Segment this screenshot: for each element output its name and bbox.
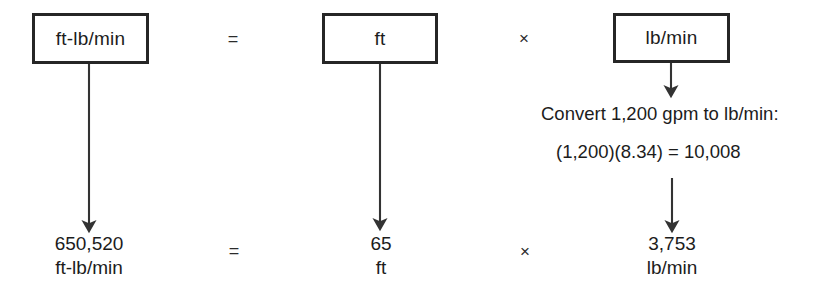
operator-equals-bottom: = [216,242,252,260]
operator-times-bottom: × [507,243,543,260]
result-value-1-number: 650,520 [55,232,124,256]
conversion-note-line1: Convert 1,200 gpm to lb/min: [541,103,779,124]
operator-equals-top: = [215,30,251,48]
unit-box-ft-label: ft [375,28,386,50]
unit-box-ft-lb-min: ft-lb/min [32,13,149,64]
formula-diagram: ft-lb/min = ft × lb/min Convert 1,200 gp… [0,0,829,291]
result-value-2-number: 65 [370,232,391,256]
result-value-1: 650,520 ft-lb/min [55,232,124,281]
result-value-2-unit: ft [370,256,391,280]
unit-box-lb-min: lb/min [613,13,730,63]
result-value-3: 3,753 lb/min [647,232,698,281]
result-value-3-unit: lb/min [647,256,698,280]
result-value-2: 65 ft [370,232,391,281]
conversion-note-line2: (1,200)(8.34) = 10,008 [556,141,741,162]
result-value-3-number: 3,753 [647,232,698,256]
result-value-1-unit: ft-lb/min [55,256,124,280]
unit-box-ft: ft [322,13,438,64]
unit-box-lb-min-label: lb/min [646,27,698,49]
operator-times-top: × [506,30,542,47]
unit-box-ft-lb-min-label: ft-lb/min [56,28,125,50]
